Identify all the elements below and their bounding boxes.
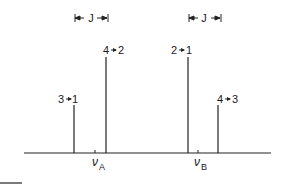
svg-text:3: 3 [232,93,238,105]
svg-text:4: 4 [217,93,223,105]
coupling-label-b: J [201,12,207,24]
svg-text:ν: ν [194,155,200,169]
svg-text:1: 1 [186,44,192,56]
svg-text:ν: ν [92,155,98,169]
nu-b-label: ν B [194,155,207,172]
svg-text:A: A [99,162,105,172]
svg-text:1: 1 [72,93,78,105]
svg-text:3: 3 [58,93,64,105]
nmr-spectrum-diagram: J J 3 1 4 2 2 1 4 3 ν [0,0,284,191]
svg-text:2: 2 [118,44,124,56]
label-4-2: 4 2 [103,44,124,56]
svg-text:B: B [201,162,207,172]
label-2-1: 2 1 [171,44,192,56]
svg-text:2: 2 [171,44,177,56]
svg-text:4: 4 [103,44,109,56]
label-3-1: 3 1 [58,93,78,105]
label-4-3: 4 3 [217,93,238,105]
coupling-label-a: J [88,12,94,24]
nu-a-label: ν A [92,155,105,172]
